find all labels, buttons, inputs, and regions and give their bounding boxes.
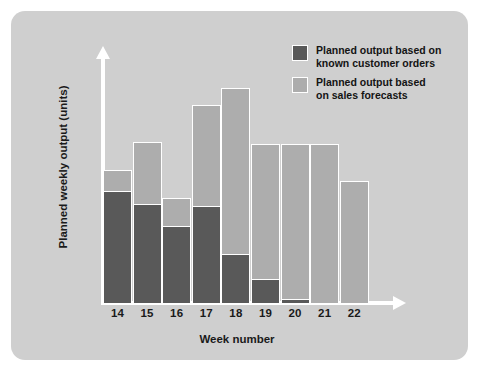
bar-segment-known-orders-week-15	[133, 204, 162, 303]
chart-figure: 141516171819202122 Week number Planned w…	[0, 0, 479, 373]
bar-segment-sales-forecast-week-20	[281, 144, 310, 299]
bar-week-18	[221, 88, 250, 303]
bar-week-22	[340, 181, 369, 303]
bar-segment-known-orders-week-16	[162, 226, 191, 303]
legend-label-sales-forecasts: Planned output based on sales forecasts	[316, 76, 426, 101]
x-tick-label-19: 19	[251, 307, 280, 319]
x-tick-label-22: 22	[340, 307, 369, 319]
y-axis-title: Planned weekly output (units)	[57, 82, 69, 252]
plot-area: 141516171819202122 Week number Planned w…	[11, 11, 468, 360]
chart-panel: 141516171819202122 Week number Planned w…	[11, 11, 468, 360]
bar-segment-sales-forecast-week-21	[310, 144, 339, 303]
bar-segment-sales-forecast-week-19	[251, 144, 280, 279]
bar-week-16	[162, 198, 191, 303]
legend-label-known-customer-orders: Planned output based on known customer o…	[316, 44, 441, 69]
bar-segment-sales-forecast-week-16	[162, 198, 191, 226]
bar-segment-known-orders-week-17	[192, 206, 221, 303]
bar-segment-sales-forecast-week-18	[221, 88, 250, 253]
bar-week-19	[251, 144, 280, 303]
bar-week-20	[281, 144, 310, 303]
legend-item-known-customer-orders: Planned output based on known customer o…	[292, 44, 467, 69]
x-tick-label-14: 14	[103, 307, 132, 319]
x-axis-title: Week number	[103, 333, 371, 345]
bar-segment-known-orders-week-20	[281, 299, 310, 303]
bar-segment-sales-forecast-week-14	[103, 170, 132, 191]
bar-segment-known-orders-week-14	[103, 191, 132, 303]
bar-week-14	[103, 170, 132, 303]
x-tick-label-21: 21	[310, 307, 339, 319]
x-tick-label-20: 20	[281, 307, 310, 319]
legend-swatch-dark-icon	[292, 45, 308, 61]
legend-item-sales-forecasts: Planned output based on sales forecasts	[292, 76, 467, 101]
bar-segment-known-orders-week-19	[251, 279, 280, 303]
bar-week-21	[310, 144, 339, 303]
bar-segment-known-orders-week-18	[221, 254, 250, 303]
x-tick-label-17: 17	[192, 307, 221, 319]
legend-swatch-light-icon	[292, 77, 308, 93]
chart-legend: Planned output based on known customer o…	[292, 44, 467, 108]
bar-week-15	[133, 142, 162, 303]
x-axis-arrow-icon	[393, 296, 406, 310]
y-axis-arrow-icon	[96, 46, 110, 59]
x-tick-label-15: 15	[133, 307, 162, 319]
bar-week-17	[192, 105, 221, 303]
bar-segment-sales-forecast-week-15	[133, 142, 162, 204]
x-tick-label-16: 16	[162, 307, 191, 319]
bar-segment-sales-forecast-week-17	[192, 105, 221, 206]
bar-segment-sales-forecast-week-22	[340, 181, 369, 303]
x-tick-label-18: 18	[221, 307, 250, 319]
